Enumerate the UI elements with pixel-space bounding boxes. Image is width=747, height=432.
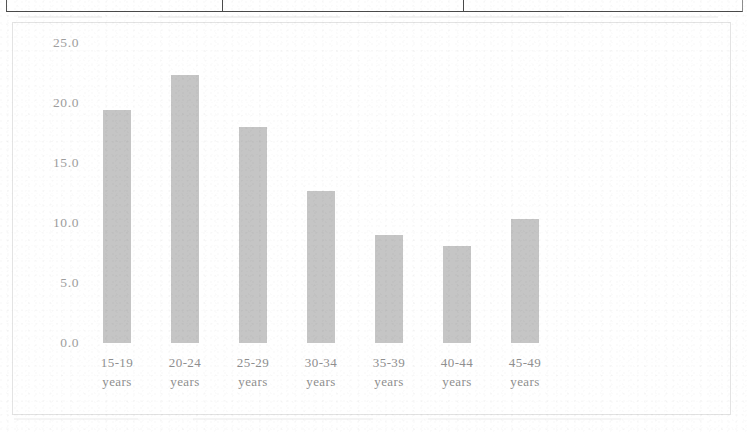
bar-series: 15-19years20-24years25-29years30-34years…: [13, 23, 732, 416]
bar-chart: 25.020.015.010.05.00.0 15-19years20-24ye…: [12, 22, 731, 415]
bar: [103, 110, 131, 343]
scan-artifact-line: [18, 16, 718, 18]
bar: [375, 235, 403, 343]
scan-artifact-line-bottom: [14, 418, 704, 420]
x-axis-tick-label: 45-49years: [483, 353, 567, 391]
bar: [307, 191, 335, 343]
table-column-divider: [463, 0, 464, 11]
bar: [171, 75, 199, 343]
table-fragment: [6, 0, 741, 12]
bar: [443, 246, 471, 343]
bar: [511, 219, 539, 343]
plot-area: 25.020.015.010.05.00.0 15-19years20-24ye…: [13, 23, 732, 416]
x-axis-tick-label-line: years: [483, 372, 567, 391]
x-axis-tick-label-line: 45-49: [483, 353, 567, 372]
bar: [239, 127, 267, 343]
table-column-divider: [222, 0, 223, 11]
table-row: [6, 0, 743, 12]
